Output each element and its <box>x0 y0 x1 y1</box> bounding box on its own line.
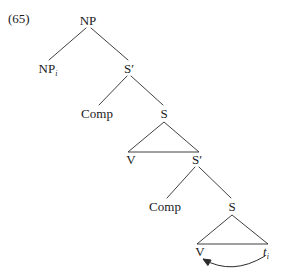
tree-lines-layer <box>0 0 286 279</box>
movement-arrowhead <box>203 259 211 266</box>
node-v-2: V <box>195 245 204 258</box>
node-sbar-2-text: S′ <box>192 152 202 167</box>
branch-np-to-npi <box>49 28 86 60</box>
node-np-moved-index: i <box>55 69 57 78</box>
node-s-1: S <box>160 107 167 120</box>
branch-np-to-sbar1 <box>91 28 128 60</box>
node-np-moved-text: NP <box>39 61 56 76</box>
node-s-1-text: S <box>160 106 167 121</box>
triangle-group <box>128 122 268 244</box>
branch-sbar1-to-comp1 <box>99 76 127 105</box>
node-comp-1: Comp <box>81 107 113 120</box>
branch-sbar1-to-s1 <box>131 76 163 105</box>
node-comp-1-text: Comp <box>81 106 113 121</box>
node-v-1: V <box>126 153 135 166</box>
node-sbar-2: S′ <box>192 153 202 166</box>
node-np-root: NP <box>80 14 97 27</box>
branch-group <box>49 28 231 198</box>
triangle-s2 <box>197 215 268 244</box>
node-s-2: S <box>228 200 235 213</box>
node-v-2-text: V <box>195 244 204 259</box>
node-np-root-text: NP <box>80 13 97 28</box>
syntax-tree-figure: (65) NPNPiS′CompSVS′CompSVti <box>0 0 286 279</box>
node-sbar-1-text: S′ <box>124 61 134 76</box>
movement-arrow-trace-to-v <box>203 256 265 267</box>
node-comp-2: Comp <box>149 200 181 213</box>
triangle-s1 <box>128 122 199 152</box>
branch-sbar2-to-s2 <box>199 167 231 198</box>
node-comp-2-text: Comp <box>149 199 181 214</box>
node-sbar-1: S′ <box>124 62 134 75</box>
node-v-1-text: V <box>126 152 135 167</box>
node-s-2-text: S <box>228 199 235 214</box>
node-trace: ti <box>263 245 269 258</box>
branch-sbar2-to-comp2 <box>167 167 195 198</box>
node-trace-index: i <box>267 252 269 261</box>
movement-arc-group <box>203 256 265 267</box>
node-np-moved: NPi <box>39 62 58 75</box>
